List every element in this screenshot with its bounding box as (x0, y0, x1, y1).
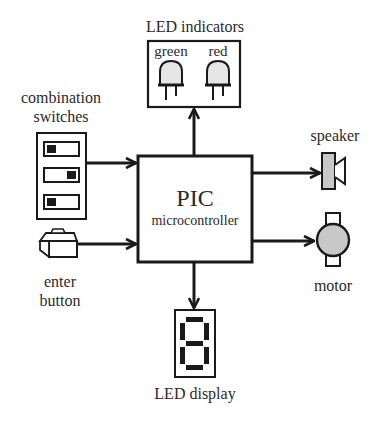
motor-icon (317, 213, 349, 266)
seven-segment-display-icon (175, 310, 215, 377)
enter-button-label-line2: button (20, 292, 100, 310)
enter-button-label-line1: enter (20, 273, 100, 291)
speaker-icon (322, 153, 345, 189)
pic-title: PIC (138, 185, 252, 211)
combination-switches-label-line1: combination (10, 89, 112, 107)
motor-label: motor (300, 277, 366, 295)
enter-button-icon (40, 229, 77, 257)
green-led-label: green (148, 42, 194, 60)
speaker-label: speaker (300, 127, 370, 145)
combination-switches-label-line2: switches (10, 108, 112, 126)
led-display-label: LED display (135, 385, 255, 403)
pic-subtitle: microcontroller (138, 212, 252, 230)
combination-switches-icon (37, 133, 86, 219)
led-indicators-label: LED indicators (140, 18, 250, 36)
red-led-label: red (200, 42, 236, 60)
